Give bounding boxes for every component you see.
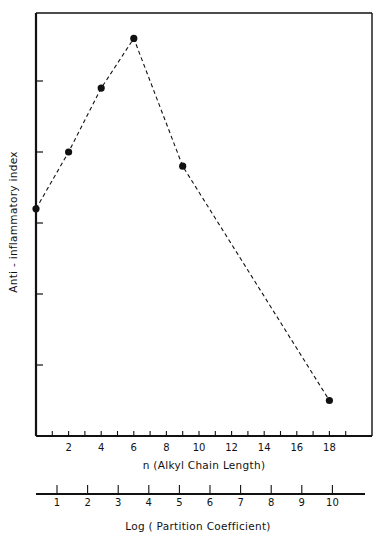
- data-point: [326, 397, 333, 404]
- secondary-x-tick-label: 5: [176, 497, 182, 508]
- x-tick-label: 8: [163, 442, 169, 453]
- data-point: [32, 205, 39, 212]
- chart: 24681012141618 Anti - inflammatory index…: [0, 0, 381, 538]
- secondary-x-tick-label: 7: [237, 497, 243, 508]
- secondary-x-tick-label: 10: [326, 497, 339, 508]
- secondary-x-tick-label: 4: [146, 497, 152, 508]
- secondary-x-tick-label: 3: [115, 497, 121, 508]
- secondary-x-tick-label: 2: [84, 497, 90, 508]
- x-tick-label: 16: [290, 442, 303, 453]
- data-point: [130, 35, 137, 42]
- secondary-x-tick-label: 6: [207, 497, 213, 508]
- data-series: [32, 35, 333, 404]
- secondary-x-axis-title: Log ( Partition Coefficient): [125, 520, 271, 532]
- data-point: [65, 148, 72, 155]
- secondary-x-tick-label: 1: [54, 497, 60, 508]
- secondary-x-tick-label: 9: [299, 497, 305, 508]
- x-tick-label: 10: [193, 442, 206, 453]
- data-point: [179, 163, 186, 170]
- x-tick-label: 18: [323, 442, 336, 453]
- secondary-x-tick-label: 8: [268, 497, 274, 508]
- x-axis-title: n (Alkyl Chain Length): [143, 459, 266, 471]
- series-line: [36, 38, 329, 400]
- x-tick-label: 14: [258, 442, 271, 453]
- x-tick-label: 12: [225, 442, 238, 453]
- secondary-x-axis: 12345678910: [36, 485, 365, 508]
- x-tick-label: 2: [65, 442, 71, 453]
- data-point: [98, 85, 105, 92]
- y-axis-title: Anti - inflammatory index: [7, 151, 19, 292]
- x-tick-label: 6: [131, 442, 137, 453]
- x-axis-tick-labels: 24681012141618: [65, 442, 335, 453]
- plot-frame: [36, 13, 372, 436]
- x-tick-label: 4: [98, 442, 104, 453]
